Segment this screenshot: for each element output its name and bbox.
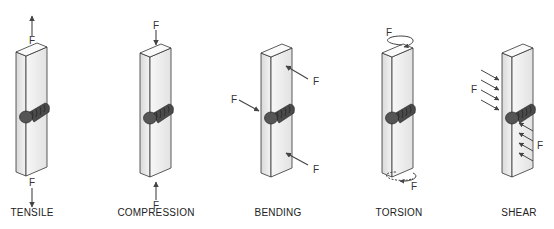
caption-tensile: TENSILE (10, 207, 53, 218)
force-label: F (537, 140, 543, 151)
force-label: F (313, 76, 319, 87)
force-label: F (411, 181, 417, 192)
force-label: F (153, 20, 159, 31)
panel-compression (140, 30, 174, 200)
panel-bending (239, 44, 308, 177)
panel-torsion (382, 36, 416, 181)
force-label: F (386, 27, 392, 38)
force-label: F (313, 164, 319, 175)
force-label: F (29, 177, 35, 188)
force-label: F (471, 84, 477, 95)
force-label: F (231, 94, 237, 105)
diagram-canvas (0, 0, 554, 229)
caption-compression: COMPRESSION (117, 207, 194, 218)
caption-shear: SHEAR (501, 207, 536, 218)
caption-torsion: TORSION (376, 207, 423, 218)
panel-shear (481, 44, 536, 177)
force-label: F (29, 35, 35, 46)
torsion-arrow-top-icon (387, 36, 413, 47)
caption-bending: BENDING (255, 207, 302, 218)
